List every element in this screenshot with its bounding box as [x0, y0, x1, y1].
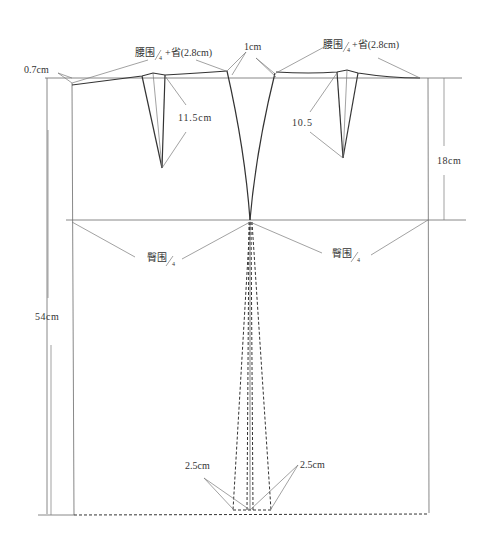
label-waist-right-frac: 4 [347, 47, 350, 53]
center-curves [227, 71, 275, 220]
left-dart-leg-outer [142, 76, 162, 168]
leader-waist-left-b [196, 60, 226, 71]
leader-hip-right-b [371, 220, 428, 255]
leader-dart-left-a [165, 76, 186, 105]
leader-lines [58, 46, 428, 510]
left-dart-leg-inner [162, 75, 165, 168]
leader-side-raise-b [58, 73, 72, 78]
left-dart-center [153, 73, 162, 168]
pleat-right-outer [252, 222, 271, 510]
hem-line [74, 514, 429, 515]
pleat-right-inner [251, 222, 253, 510]
leader-hip-left-a [72, 222, 135, 257]
left-dart [142, 73, 165, 168]
leader-dart-right-b [310, 132, 343, 158]
skirt-pattern-diagram: 0.7cm 腰围 4 +省(2.8cm) 1cm 腰围 4 +省(2.8cm) … [0, 0, 487, 545]
leader-waist-right-b [378, 58, 420, 78]
label-hem-right-flare: 2.5cm [300, 459, 325, 470]
right-center-curve [250, 73, 275, 220]
right-dart [337, 70, 358, 158]
label-center-raise: 1cm [244, 41, 261, 52]
label-dart-left-length: 11.5cm [178, 112, 212, 123]
leader-dart-left-b [162, 132, 186, 168]
label-waist-left-frac: 4 [159, 55, 162, 61]
label-waist-left-suffix: +省(2.8cm) [165, 46, 212, 59]
leader-hip-right-a [250, 222, 322, 253]
label-hip-left-frac: 4 [172, 261, 175, 267]
left-side-seam-line [72, 83, 74, 515]
label-hip-right-main: 臀围 [332, 248, 352, 259]
pleat-left-outer [233, 222, 250, 510]
label-hip-depth: 18cm [437, 155, 461, 166]
waist-curves [72, 70, 420, 85]
leader-waist-right-a [276, 46, 326, 73]
label-skirt-length: 54cm [35, 311, 59, 322]
leader-hem-left-a [204, 478, 233, 509]
label-waist-right-suffix: +省(2.8cm) [352, 38, 399, 51]
dimension-lines [48, 78, 444, 515]
leader-hem-right-b [271, 465, 298, 509]
leader-hem-left-b [204, 478, 250, 510]
right-waist-curve [276, 70, 420, 78]
label-waist-left-main: 腰围 [135, 47, 155, 58]
right-dart-leg-outer [337, 72, 343, 158]
label-waist-right-main: 腰围 [323, 39, 343, 50]
pleat-left-inner [247, 222, 249, 510]
pleat-lines [74, 222, 429, 515]
label-hip-left-main: 臀围 [147, 252, 167, 263]
label-dart-right-length: 10.5 [292, 117, 313, 128]
leader-hem-right-a [250, 465, 298, 510]
label-side-raise: 0.7cm [24, 64, 49, 75]
leader-hip-left-b [182, 222, 250, 259]
leader-center-raise-d [256, 58, 276, 77]
right-side-seam-line [428, 78, 429, 513]
construction-lines [38, 78, 466, 515]
labels: 0.7cm 腰围 4 +省(2.8cm) 1cm 腰围 4 +省(2.8cm) … [24, 38, 461, 471]
left-center-curve [227, 71, 250, 220]
leader-dart-right-a [310, 73, 337, 112]
label-hem-left-flare: 2.5cm [185, 460, 210, 471]
label-hip-right-frac: 4 [357, 257, 360, 263]
